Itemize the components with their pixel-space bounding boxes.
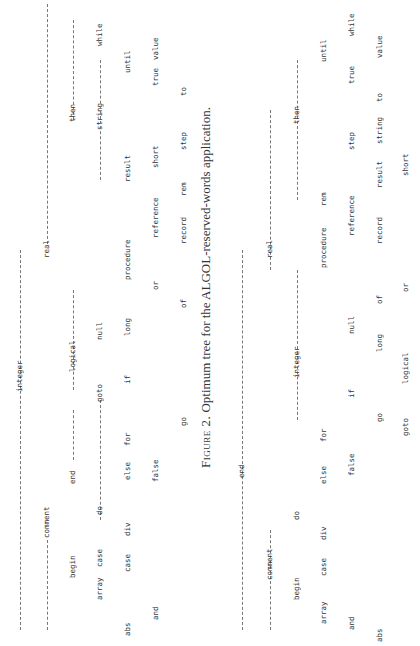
tree1-node-until: until [124,50,132,73]
connector [20,250,21,630]
tree1-node-if: if [124,375,132,384]
connector [297,60,298,200]
tree2-node-record: record [376,217,384,244]
tree2-node-reference: reference [348,195,356,236]
tree2-node-rem: rem [320,192,328,206]
tree2-node-true: true [348,66,356,84]
tree2-node-false: false [348,453,356,476]
tree2-node-go: go [376,413,384,422]
tree2-node-step: step [348,132,356,150]
tree1-node-rem: rem [180,182,188,196]
tree2-node-abs: abs [376,628,384,642]
tree1-node-null: null [96,322,104,340]
tree2-node-of: of [376,295,384,304]
tree1-node-real: real [43,240,51,258]
tree2-node-and: and [348,616,356,630]
tree2-node-short: short [402,153,410,176]
tree2-node-null: null [348,316,356,334]
tree1-node-array: array [96,577,104,600]
tree1-node-go: go [180,417,188,426]
tree1-node-goto: goto [96,384,104,402]
tree2-node-else: else [320,466,328,484]
connector [47,4,48,244]
figure-label: Figure 2. [198,416,213,468]
paper-page: integer real comment then logical end be… [0,0,420,646]
tree2-node-result: result [376,161,384,188]
tree2-node-array: array [320,601,328,624]
tree1-node-while: while [96,23,104,46]
tree2-node-goto: goto [402,418,410,436]
tree2-node-logical: logical [402,352,410,384]
tree1-node-end: end [69,470,77,484]
figure-caption: Figure 2. Optimum tree for the ALGOL-res… [198,107,214,468]
tree2-node-procedure: procedure [320,227,328,268]
tree2-node-real: real [266,240,274,258]
tree2-node-integer: integer [293,346,301,378]
tree1-node-do: do [96,506,104,515]
tree2-node-value: value [376,35,384,58]
connector [270,530,271,630]
tree1-node-case2: case [124,554,132,572]
tree2-node-do: do [293,511,301,520]
tree1-node-else: else [124,462,132,480]
tree1-node-procedure: procedure [124,239,132,280]
tree1-node-to: to [180,87,188,96]
tree2-node-begin: begin [293,577,301,600]
connector [73,410,74,460]
tree2-node-if: if [348,389,356,398]
tree1-node-true: true [152,68,160,86]
tree1-node-value: value [152,37,160,60]
tree1-node-abs: abs [124,622,132,636]
tree1-node-logical: logical [69,340,77,372]
tree1-node-reference: reference [152,197,160,238]
tree2-node-comment: comment [266,548,274,580]
tree1-node-false: false [152,459,160,482]
tree2-node-end: end [238,464,246,478]
tree1-node-result: result [124,155,132,182]
tree2-node-string: string [376,117,384,144]
tree1-node-begin: begin [69,555,77,578]
connector [100,60,101,180]
tree2-node-then: then [293,106,301,124]
tree1-node-record: record [180,217,188,244]
tree2-node-until: until [320,39,328,62]
tree1-node-or: or [152,281,160,290]
tree1-node-case: case [96,549,104,567]
tree1-node-comment: comment [43,506,51,538]
tree1-node-short: short [152,145,160,168]
connector [47,540,48,630]
tree1-node-then: then [69,104,77,122]
tree2-node-or: or [402,283,410,292]
tree1-node-step: step [180,132,188,150]
figure-caption-text: Optimum tree for the ALGOL-reserved-word… [198,107,213,412]
tree1-node-long: long [124,318,132,336]
tree2-node-case: case [320,558,328,576]
tree2-node-long: long [376,334,384,352]
connector [297,270,298,420]
tree2-node-while: while [348,13,356,36]
tree2-node-div: div [320,526,328,540]
tree2-node-for: for [320,428,328,442]
tree2-node-to: to [376,93,384,102]
tree1-node-of: of [180,299,188,308]
tree1-node-integer: integer [16,360,24,392]
tree1-node-for: for [124,432,132,446]
connector [100,400,101,520]
connector [242,250,243,630]
tree1-node-div: div [124,522,132,536]
tree1-node-and: and [152,606,160,620]
